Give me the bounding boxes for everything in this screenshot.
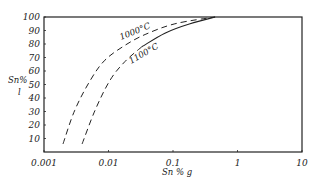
x-axis-title: Sn % g xyxy=(162,167,193,177)
plot-frame xyxy=(44,17,302,152)
curve-label-1100c: 1100°C xyxy=(127,41,160,66)
x-tick-label: 1 xyxy=(235,158,241,168)
curve-label-1000c: 1000°C xyxy=(118,20,152,42)
y-tick-label: 30 xyxy=(29,107,41,117)
y-tick-label: 80 xyxy=(29,39,41,49)
y-tick-label: 70 xyxy=(29,53,41,63)
y-tick-label: 40 xyxy=(28,93,41,103)
y-tick-label: 10 xyxy=(29,134,41,144)
y-tick-label: 50 xyxy=(29,80,41,90)
x-tick-label: 0.001 xyxy=(31,158,57,168)
y-axis-title: Sn% xyxy=(8,75,27,85)
y-axis-title-sub: l xyxy=(18,87,21,97)
x-tick-label: 10 xyxy=(296,158,308,168)
chart: 102030405060708090100 0.0010.010.1110 10… xyxy=(0,0,315,191)
y-tick-label: 100 xyxy=(23,12,40,22)
y-tick-label: 90 xyxy=(29,26,41,36)
x-tick-label: 0.01 xyxy=(98,158,118,168)
x-axis: 0.0010.010.1110 xyxy=(31,150,308,168)
y-tick-label: 20 xyxy=(28,120,41,130)
y-tick-label: 60 xyxy=(29,66,41,76)
curve-1000c xyxy=(63,17,215,144)
